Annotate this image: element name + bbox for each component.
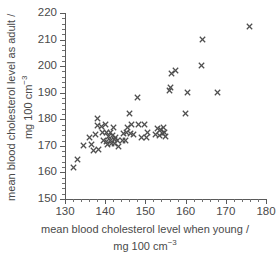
data-point <box>162 133 169 140</box>
y-tick-label-200: 200 <box>17 60 57 72</box>
x-minor-tick <box>250 199 251 202</box>
x-minor-tick <box>258 199 259 202</box>
y-minor-tick <box>62 178 65 179</box>
x-axis-line <box>65 199 267 200</box>
y-minor-tick <box>62 194 65 195</box>
x-minor-tick <box>218 199 219 202</box>
data-point <box>172 67 179 74</box>
y-minor-tick <box>62 109 65 110</box>
x-tick-label-140: 140 <box>96 206 115 218</box>
y-minor-tick <box>62 156 65 157</box>
plot-area <box>65 13 266 199</box>
x-axis-units: mg 100 cm <box>113 240 167 252</box>
y-tick-170 <box>60 146 65 147</box>
y-minor-tick <box>62 29 65 30</box>
y-minor-tick <box>62 50 65 51</box>
data-point <box>141 121 148 128</box>
data-point <box>130 131 137 138</box>
data-point <box>102 121 109 128</box>
y-tick-220 <box>60 13 65 14</box>
x-tick-180 <box>266 199 267 204</box>
y-tick-label-170: 170 <box>17 140 57 152</box>
x-minor-tick <box>178 199 179 202</box>
y-tick-label-150: 150 <box>17 193 57 205</box>
y-axis-title-line2: mg 100 cm−3 <box>21 76 33 140</box>
x-minor-tick <box>97 199 98 202</box>
y-axis-title-line1: mean blood cholesterol level as adult / <box>5 14 17 201</box>
x-minor-tick <box>234 199 235 202</box>
x-minor-tick <box>194 199 195 202</box>
x-minor-tick <box>242 199 243 202</box>
y-minor-tick <box>62 71 65 72</box>
y-minor-tick <box>62 103 65 104</box>
x-minor-tick <box>113 199 114 202</box>
data-point <box>184 89 191 96</box>
x-tick-label-170: 170 <box>216 206 235 218</box>
y-minor-tick <box>62 141 65 142</box>
data-point <box>80 142 87 149</box>
data-point <box>122 137 129 144</box>
x-minor-tick <box>161 199 162 202</box>
data-point <box>134 94 141 101</box>
x-tick-label-160: 160 <box>176 206 195 218</box>
x-axis-title: mean blood cholesterol level when young … <box>30 222 260 253</box>
y-minor-tick <box>62 24 65 25</box>
data-point <box>167 84 174 91</box>
x-minor-tick <box>210 199 211 202</box>
x-tick-label-180: 180 <box>256 206 275 218</box>
y-axis-units-exponent: −3 <box>20 76 29 85</box>
y-minor-tick <box>62 18 65 19</box>
y-minor-tick <box>62 188 65 189</box>
x-minor-tick <box>89 199 90 202</box>
data-point <box>110 124 117 131</box>
scatter-chart: mean blood cholesterol level when young … <box>0 0 276 255</box>
y-minor-tick <box>62 130 65 131</box>
y-tick-label-160: 160 <box>17 166 57 178</box>
y-minor-tick <box>62 77 65 78</box>
x-minor-tick <box>81 199 82 202</box>
x-axis-units-exponent: −3 <box>168 238 177 247</box>
y-minor-tick <box>62 114 65 115</box>
data-point <box>115 143 122 150</box>
x-axis-title-line2: mg 100 cm−3 <box>113 240 177 252</box>
y-tick-label-220: 220 <box>17 7 57 19</box>
y-minor-tick <box>62 183 65 184</box>
data-point <box>92 131 99 138</box>
y-tick-190 <box>60 93 65 94</box>
x-tick-140 <box>105 199 106 204</box>
y-tick-160 <box>60 172 65 173</box>
y-tick-label-180: 180 <box>17 113 57 125</box>
x-minor-tick <box>202 199 203 202</box>
x-tick-label-130: 130 <box>55 206 74 218</box>
x-minor-tick <box>129 199 130 202</box>
y-minor-tick <box>62 162 65 163</box>
y-minor-tick <box>62 56 65 57</box>
x-minor-tick <box>153 199 154 202</box>
data-point <box>214 89 221 96</box>
data-point <box>95 146 102 153</box>
y-minor-tick <box>62 45 65 46</box>
data-point <box>70 164 77 171</box>
y-minor-tick <box>62 87 65 88</box>
data-point <box>126 110 133 117</box>
x-minor-tick <box>73 199 74 202</box>
x-minor-tick <box>121 199 122 202</box>
y-minor-tick <box>62 61 65 62</box>
x-tick-label-150: 150 <box>136 206 155 218</box>
y-minor-tick <box>62 34 65 35</box>
y-minor-tick <box>62 82 65 83</box>
data-point <box>128 121 135 128</box>
data-point <box>144 129 151 136</box>
x-tick-150 <box>145 199 146 204</box>
data-point <box>246 23 253 30</box>
x-tick-160 <box>186 199 187 204</box>
y-tick-label-210: 210 <box>17 34 57 46</box>
y-tick-210 <box>60 40 65 41</box>
y-minor-tick <box>62 151 65 152</box>
y-tick-200 <box>60 66 65 67</box>
y-minor-tick <box>62 125 65 126</box>
x-minor-tick <box>137 199 138 202</box>
data-point <box>182 110 189 117</box>
data-point <box>74 156 81 163</box>
y-minor-tick <box>62 98 65 99</box>
